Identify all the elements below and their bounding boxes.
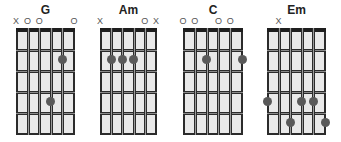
fret-line	[183, 70, 243, 73]
nut	[16, 28, 75, 32]
fret-line	[183, 112, 243, 115]
fret-line	[16, 112, 75, 115]
fret-line	[183, 49, 243, 52]
fret-line	[267, 112, 326, 115]
string-line	[217, 28, 220, 135]
chord-em: Em X	[267, 0, 326, 142]
muted-string-marker: X	[274, 16, 284, 26]
string-line	[61, 28, 64, 135]
chord-title: Am	[100, 3, 157, 17]
string-line	[278, 28, 281, 135]
finger-dot	[309, 97, 318, 106]
fretboard-grid	[267, 28, 326, 135]
open-string-marker: O	[213, 16, 223, 26]
finger-dot	[118, 55, 127, 64]
finger-dot	[107, 55, 116, 64]
string-line	[144, 28, 147, 135]
fret-line	[100, 91, 157, 94]
fretboard-grid	[183, 28, 243, 135]
fret-line	[183, 91, 243, 94]
nut	[100, 28, 157, 32]
string-line	[27, 28, 30, 135]
chord-g: G XOOO	[16, 0, 75, 142]
fret-line	[100, 112, 157, 115]
nut	[183, 28, 243, 32]
chord-am: Am XOX	[100, 0, 157, 142]
fret-line	[267, 91, 326, 94]
muted-string-marker: X	[151, 16, 161, 26]
fret-line	[100, 70, 157, 73]
fret-line	[267, 49, 326, 52]
muted-string-marker: X	[95, 16, 105, 26]
fret-line	[16, 70, 75, 73]
string-line	[301, 28, 304, 135]
string-line	[38, 28, 41, 135]
chord-title: C	[183, 3, 243, 17]
string-line	[312, 28, 315, 135]
fret-line	[16, 49, 75, 52]
finger-dot	[238, 55, 247, 64]
chord-title: Em	[267, 3, 326, 17]
open-string-marker: O	[140, 16, 150, 26]
string-line	[50, 28, 53, 135]
string-line	[110, 28, 113, 135]
string-line	[206, 28, 209, 135]
finger-dot	[263, 97, 272, 106]
string-line	[229, 28, 232, 135]
fret-line	[16, 91, 75, 94]
open-string-marker: O	[190, 16, 200, 26]
fretboard-grid	[100, 28, 157, 135]
open-string-marker: O	[34, 16, 44, 26]
chord-title: G	[16, 3, 75, 17]
finger-dot	[321, 118, 330, 127]
fret-line	[267, 70, 326, 73]
muted-string-marker: X	[11, 16, 21, 26]
open-string-marker: O	[23, 16, 33, 26]
fret-line	[100, 49, 157, 52]
finger-dot	[286, 118, 295, 127]
finger-dot	[58, 55, 67, 64]
open-string-marker: O	[178, 16, 188, 26]
chord-c: C OOOO	[183, 0, 243, 142]
open-string-marker: O	[225, 16, 235, 26]
open-string-marker: O	[69, 16, 79, 26]
nut	[267, 28, 326, 32]
string-line	[194, 28, 197, 135]
fretboard-grid	[16, 28, 75, 135]
string-line	[133, 28, 136, 135]
string-line	[121, 28, 124, 135]
